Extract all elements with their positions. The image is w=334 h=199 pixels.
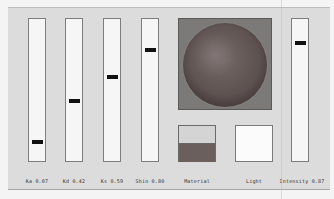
material-color-swatch[interactable]: [178, 125, 216, 162]
ka-slider-thumb[interactable]: [32, 140, 43, 144]
shininess-slider[interactable]: [141, 18, 159, 162]
light-color-swatch[interactable]: [235, 125, 273, 162]
divider: [281, 0, 282, 199]
ks-slider-thumb[interactable]: [107, 75, 118, 79]
ks-label: Ks 0.59: [101, 178, 123, 184]
material-top-color: [179, 126, 215, 144]
kd-slider-thumb[interactable]: [69, 99, 80, 103]
sphere-preview: [178, 18, 272, 110]
ka-slider[interactable]: [28, 18, 46, 162]
kd-label: Kd 0.42: [63, 178, 85, 184]
intensity-slider[interactable]: [291, 18, 309, 162]
ka-label: Ka 0.07: [26, 178, 48, 184]
intensity-slider-thumb[interactable]: [295, 41, 306, 45]
intensity-label: Intensity 0.87: [280, 178, 325, 184]
material-label: Material: [184, 178, 210, 184]
kd-slider[interactable]: [65, 18, 83, 162]
shininess-slider-thumb[interactable]: [145, 48, 156, 52]
shininess-label: Shin 0.80: [136, 178, 165, 184]
light-label: Light: [246, 178, 262, 184]
material-bottom-color: [179, 144, 215, 162]
ks-slider[interactable]: [103, 18, 121, 162]
shaded-sphere: [183, 23, 267, 107]
